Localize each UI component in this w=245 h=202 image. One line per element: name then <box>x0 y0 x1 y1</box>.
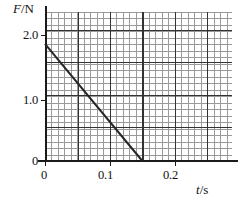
y-tick-label-1: 1.0 <box>0 93 38 108</box>
y-axis-title: F/N <box>13 1 34 17</box>
y-axis-title-unit: /N <box>21 1 34 16</box>
y-tick-label-2: 2.0 <box>0 28 38 43</box>
y-tick-mark-2 <box>41 35 46 36</box>
x-tick-mark-2 <box>175 161 176 166</box>
x-tick-label-0: 0 <box>41 168 47 183</box>
data-line-F-vs-t <box>45 44 142 161</box>
chart-figure: 0 1.0 2.0 0 0.1 0.2 F/N t/s <box>0 0 245 202</box>
y-axis-title-variable: F <box>13 1 21 16</box>
x-axis-title: t/s <box>196 182 208 198</box>
x-axis-title-unit: /s <box>200 182 209 197</box>
x-tick-label-1: 0.1 <box>98 168 113 183</box>
x-tick-label-2: 0.2 <box>163 168 178 183</box>
y-tick-mark-1 <box>41 100 46 101</box>
x-tick-mark-1 <box>110 161 111 166</box>
x-tick-mark-0 <box>45 161 46 166</box>
y-tick-label-0: 0 <box>0 154 38 169</box>
